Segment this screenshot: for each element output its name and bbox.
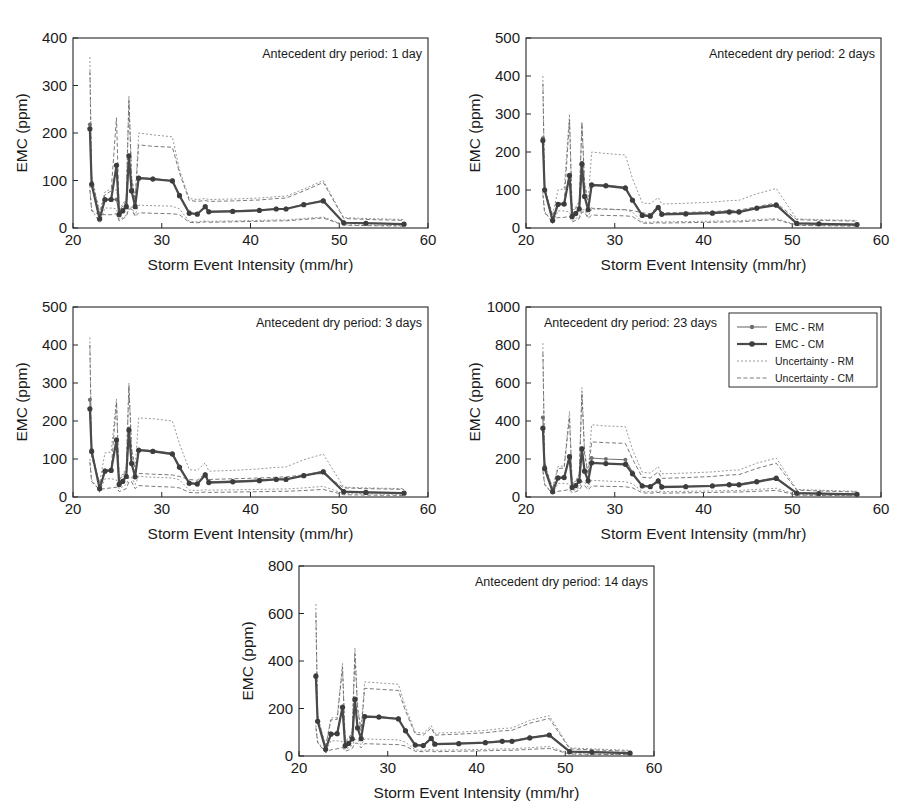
y-axis-title: EMC (ppm) xyxy=(13,362,30,441)
data-point-marker xyxy=(854,222,859,227)
x-axis-title: Storm Event Intensity (mm/hr) xyxy=(148,525,354,542)
data-point-marker xyxy=(230,479,235,484)
figure-root: 20304050600100200300400Storm Event Inten… xyxy=(0,0,906,811)
data-point-marker xyxy=(124,204,129,209)
data-point-marker xyxy=(136,176,141,181)
legend-label: EMC - CM xyxy=(775,338,824,350)
data-point-marker xyxy=(283,477,288,482)
data-point-marker xyxy=(794,491,799,496)
y-tick-label: 300 xyxy=(42,77,67,94)
y-tick-label: 400 xyxy=(42,29,67,46)
y-tick-label: 800 xyxy=(495,336,520,353)
data-point-marker xyxy=(401,222,406,227)
x-tick-label: 30 xyxy=(606,500,623,517)
y-tick-label: 100 xyxy=(42,172,67,189)
data-point-marker xyxy=(589,750,594,755)
legend-label: EMC - RM xyxy=(775,321,824,333)
data-point-marker xyxy=(627,751,632,756)
data-point-marker xyxy=(230,209,235,214)
y-tick-label: 200 xyxy=(42,412,67,429)
data-point-marker xyxy=(640,483,645,488)
data-point-marker xyxy=(542,466,547,471)
data-point-marker xyxy=(421,743,426,748)
data-point-marker xyxy=(500,739,505,744)
data-point-marker xyxy=(509,739,514,744)
data-point-marker xyxy=(363,221,368,226)
y-tick-label: 400 xyxy=(495,412,520,429)
x-tick-label: 40 xyxy=(695,500,712,517)
y-axis-title: EMC (ppm) xyxy=(466,362,483,441)
panel-note: Antecedent dry period: 23 days xyxy=(544,316,717,330)
x-tick-label: 50 xyxy=(784,231,801,248)
data-point-marker xyxy=(126,153,131,158)
data-point-marker xyxy=(401,491,406,496)
x-tick-label: 20 xyxy=(65,500,82,517)
x-tick-label: 30 xyxy=(153,500,170,517)
data-point-marker xyxy=(126,428,131,433)
data-point-marker xyxy=(177,193,182,198)
data-point-marker xyxy=(656,478,661,483)
y-axis-title: EMC (ppm) xyxy=(466,93,483,172)
x-tick-label: 40 xyxy=(468,759,485,776)
data-point-marker xyxy=(550,489,555,494)
data-point-marker xyxy=(736,482,741,487)
data-point-marker xyxy=(321,198,326,203)
x-tick-label: 40 xyxy=(695,231,712,248)
data-point-marker xyxy=(710,483,715,488)
data-point-marker xyxy=(429,736,434,741)
panel-1: 20304050600100200300400Storm Event Inten… xyxy=(0,8,453,280)
data-point-marker xyxy=(403,728,408,733)
data-point-marker xyxy=(656,205,661,210)
panel-3: 20304050600100200300400500Storm Event In… xyxy=(0,285,453,547)
panel-5: 20304050600200400600800Storm Event Inten… xyxy=(226,548,679,810)
data-point-marker xyxy=(195,212,200,217)
legend: EMC - RMEMC - CMUncertainty - RMUncertai… xyxy=(729,313,877,387)
data-point-marker xyxy=(683,211,688,216)
data-point-marker xyxy=(114,163,119,168)
data-point-marker xyxy=(89,182,94,187)
data-point-marker xyxy=(555,475,560,480)
data-point-marker xyxy=(88,122,92,126)
data-point-marker xyxy=(573,483,578,488)
y-tick-label: 400 xyxy=(495,67,520,84)
data-point-marker xyxy=(774,476,779,481)
data-point-marker xyxy=(376,714,381,719)
series-group xyxy=(87,337,406,495)
data-point-marker xyxy=(577,206,582,211)
data-point-marker xyxy=(129,188,134,193)
data-point-marker xyxy=(346,741,351,746)
data-point-marker xyxy=(754,479,759,484)
data-point-marker xyxy=(432,742,437,747)
data-point-marker xyxy=(340,705,345,710)
x-tick-label: 50 xyxy=(331,500,348,517)
data-point-marker xyxy=(659,485,664,490)
data-point-marker xyxy=(89,449,94,454)
data-point-marker xyxy=(187,211,192,216)
legend-label: Uncertainty - RM xyxy=(775,355,854,367)
data-point-marker xyxy=(129,461,134,466)
data-point-marker xyxy=(301,202,306,207)
panel-note: Antecedent dry period: 14 days xyxy=(475,575,648,589)
data-point-marker xyxy=(206,209,211,214)
data-point-marker xyxy=(97,486,102,491)
data-point-marker xyxy=(710,211,715,216)
data-point-marker xyxy=(816,491,821,496)
data-point-marker xyxy=(203,472,208,477)
data-point-marker xyxy=(527,735,532,740)
series-group xyxy=(313,604,632,756)
data-point-marker xyxy=(301,473,306,478)
data-point-marker xyxy=(579,162,584,167)
data-point-marker xyxy=(577,478,582,483)
y-axis-title: EMC (ppm) xyxy=(239,621,256,700)
x-axis-title: Storm Event Intensity (mm/hr) xyxy=(148,256,354,273)
x-tick-label: 60 xyxy=(873,500,890,517)
data-point-marker xyxy=(274,206,279,211)
series-group xyxy=(87,57,406,227)
data-point-marker xyxy=(328,732,333,737)
x-tick-label: 30 xyxy=(153,231,170,248)
data-point-marker xyxy=(102,469,107,474)
x-axis-title: Storm Event Intensity (mm/hr) xyxy=(601,256,807,273)
panel-note: Antecedent dry period: 1 day xyxy=(262,47,423,61)
data-point-marker xyxy=(87,126,92,131)
x-tick-label: 60 xyxy=(420,231,437,248)
